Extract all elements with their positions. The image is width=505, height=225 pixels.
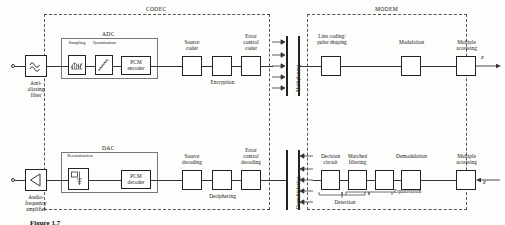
- source-coder-label: Source coder: [176, 39, 208, 51]
- wire-quant-to-pcm: [113, 66, 121, 67]
- wire-in-to-filter: [15, 66, 25, 67]
- multiple-accessing-rx-label: Multiple accessing: [449, 153, 484, 165]
- error-control-coder-block[interactable]: [241, 56, 261, 76]
- system-block-diagram: CODEC MODEM ADC DAC Anti- aliasing filte…: [0, 0, 505, 225]
- wire-ecd-to-demux: [261, 180, 286, 181]
- line-coding-block[interactable]: [321, 56, 341, 76]
- wire-deciph-to-ecd: [232, 180, 241, 181]
- detection-label: Detection: [324, 199, 366, 205]
- wire-recon-to-pcmdec: [89, 180, 121, 181]
- rx-input-symbol: z: [483, 178, 486, 186]
- matched-filtering-block[interactable]: [348, 170, 367, 190]
- wire-mux-to-linecoding: [299, 66, 321, 67]
- wire-demux-to-decision: [313, 180, 321, 181]
- wire-linecoding-to-modulation: [341, 66, 401, 67]
- audio-frequency-amplifier-label: Audio- frequency amplifier: [6, 194, 66, 212]
- error-control-coder-label: Error control coder: [235, 33, 267, 51]
- wire-filter-to-adc: [47, 66, 68, 67]
- wire-sourcedec-to-deciph: [202, 180, 212, 181]
- error-control-decoding-block[interactable]: [241, 170, 261, 190]
- tx-output-arrow: [476, 61, 502, 73]
- deciphering-label: Deciphering: [205, 193, 240, 199]
- error-control-decoding-label: Error control decoding: [233, 147, 269, 165]
- wire-eq-to-demod: [394, 180, 401, 181]
- modulation-block[interactable]: [401, 56, 421, 76]
- equalisation-label: Equalisation: [394, 188, 440, 194]
- staircase-icon: [97, 57, 111, 73]
- multiple-accessing-tx-block[interactable]: [456, 56, 476, 76]
- reconstruction-icon: [70, 170, 86, 188]
- multiple-accessing-rx-block[interactable]: [456, 170, 476, 190]
- demodulation-block[interactable]: [401, 170, 421, 190]
- source-decoding-block[interactable]: [182, 170, 202, 190]
- source-decoding-label: Source decoding: [174, 153, 210, 165]
- wire-modulation-to-macc: [421, 66, 456, 67]
- figure-caption: Figure 1.7: [30, 219, 60, 225]
- demultiplexing-input-arrows: [300, 152, 314, 208]
- encryption-block[interactable]: [212, 56, 232, 76]
- pcm-decoder-label: PCM decoder: [121, 173, 151, 185]
- multiplexing-input-arrows: [272, 38, 286, 94]
- quantization-label: Quantization: [89, 40, 120, 46]
- sine-wave-icon: [29, 59, 43, 73]
- wire-encryption-to-ecc: [232, 66, 241, 67]
- equalisation-block[interactable]: [375, 170, 394, 190]
- adc-title: ADC: [102, 31, 115, 37]
- modem-title: MODEM: [375, 6, 398, 12]
- rx-input-arrow: [476, 175, 502, 187]
- wire-decision-to-matched: [340, 180, 348, 181]
- wire-sampling-to-quant: [86, 66, 95, 67]
- wire-adc-to-source-coder: [151, 66, 182, 67]
- demodulation-label: Demodulation: [390, 153, 433, 159]
- sampling-icon: [70, 57, 84, 73]
- sampling-label: Sampling: [62, 40, 92, 46]
- wire-source-to-encryption: [202, 66, 212, 67]
- line-coding-label: Line coding/ pulse shaping: [310, 33, 354, 45]
- codec-title: CODEC: [146, 6, 166, 12]
- anti-aliasing-filter-label: Anti- aliasing filter: [10, 80, 62, 98]
- wire-pcmdec-to-sourcedec: [151, 180, 182, 181]
- wire-demod-to-macc-rx: [421, 180, 456, 181]
- wire-dac-to-amp: [47, 180, 68, 181]
- modulation-label: Modulation: [391, 39, 432, 45]
- amplifier-triangle-icon: [29, 172, 44, 188]
- wire-matched-to-eq: [367, 180, 375, 181]
- multiplexing-bar-left: [286, 36, 288, 96]
- matched-filtering-label: Matched filtering: [340, 153, 375, 165]
- source-coder-block[interactable]: [182, 56, 202, 76]
- decision-circuit-block[interactable]: [321, 170, 340, 190]
- deciphering-block[interactable]: [212, 170, 232, 190]
- multiple-accessing-tx-label: Multiple accessing: [449, 39, 484, 51]
- equalisation-brace: [345, 189, 397, 198]
- wire-amp-to-out: [15, 180, 25, 181]
- reconstruction-label: Reconstruction: [60, 153, 100, 159]
- pcm-encoder-label: PCM encoder: [121, 59, 151, 71]
- demultiplexing-bar-left: [286, 150, 288, 210]
- encryption-label: Encryption: [206, 79, 239, 85]
- dac-title: DAC: [102, 145, 115, 151]
- tx-output-symbol: z: [481, 53, 484, 61]
